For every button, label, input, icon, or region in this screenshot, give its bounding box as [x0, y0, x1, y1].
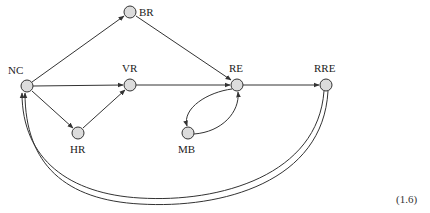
edge-rre-nc-inner [18, 91, 328, 204]
edge-re-mb [186, 89, 232, 126]
label-re: RE [229, 62, 243, 74]
edge-mb-re [194, 92, 238, 134]
label-br: BR [139, 6, 154, 18]
edge-rre-nc-outer [22, 91, 324, 199]
label-hr: HR [70, 143, 86, 155]
edge-br-re [136, 16, 231, 80]
label-rre: RRE [314, 62, 336, 74]
edges [18, 16, 328, 205]
edge-nc-br [32, 16, 124, 82]
edge-hr-vr [83, 90, 125, 128]
node-br [124, 6, 136, 18]
node-re [231, 79, 243, 91]
edge-nc-vr [33, 85, 123, 86]
node-nc [21, 80, 33, 92]
label-mb: MB [178, 143, 195, 155]
equation-number: (1.6) [396, 193, 417, 205]
label-vr: VR [122, 62, 138, 74]
node-vr [124, 79, 136, 91]
node-mb [182, 127, 194, 139]
directed-graph: NC BR VR HR RE MB RRE [0, 0, 430, 213]
edge-nc-hr [32, 91, 73, 128]
label-nc: NC [8, 64, 23, 76]
node-rre [320, 79, 332, 91]
node-hr [72, 127, 84, 139]
nodes [21, 6, 332, 139]
